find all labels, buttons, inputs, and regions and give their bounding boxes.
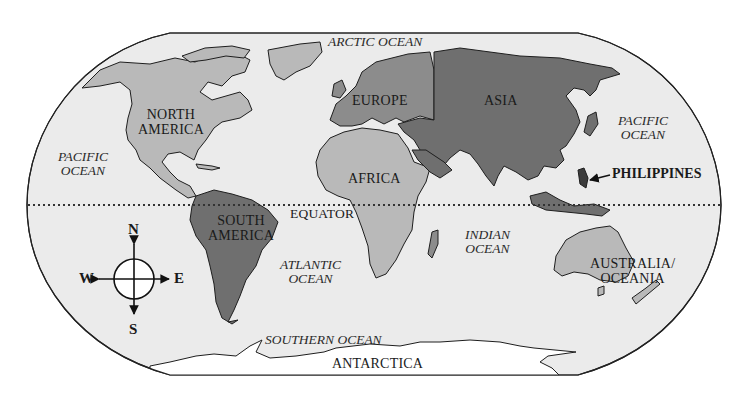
compass-east-label: E [174,271,184,286]
label-pacific-ocean-west: PACIFIC OCEAN [58,150,108,177]
label-arctic-ocean: ARCTIC OCEAN [328,35,422,49]
label-asia: ASIA [484,94,517,108]
label-line: AMERICA [138,123,204,137]
compass-north-label: N [128,222,139,237]
label-line: NORTH [138,108,204,122]
label-africa: AFRICA [348,172,401,186]
label-indian-ocean: INDIAN OCEAN [465,228,510,255]
compass-south-label: S [129,322,137,337]
label-line: AMERICA [208,229,274,243]
label-south-america: SOUTH AMERICA [208,214,274,243]
label-atlantic-ocean: ATLANTIC OCEAN [280,258,341,285]
label-line: OCEAN [618,128,668,142]
label-southern-ocean: SOUTHERN OCEAN [265,333,382,347]
label-line: OCEAN [280,272,341,286]
label-line: PACIFIC [58,150,108,164]
label-europe: EUROPE [352,94,408,108]
label-line: OCEAN [58,164,108,178]
label-line: AUSTRALIA/ [590,257,675,271]
label-line: ATLANTIC [280,258,341,272]
label-australia-oceania: AUSTRALIA/ OCEANIA [590,257,675,286]
label-line: PACIFIC [618,114,668,128]
label-north-america: NORTH AMERICA [138,108,204,137]
label-pacific-ocean-east: PACIFIC OCEAN [618,114,668,141]
label-line: SOUTH [208,214,274,228]
tasmania-landmass [598,286,604,296]
label-line: OCEAN [465,242,510,256]
compass-west-label: W [79,271,94,286]
label-line: OCEANIA [590,272,675,286]
label-line: INDIAN [465,228,510,242]
label-antarctica: ANTARCTICA [332,357,423,371]
label-equator: EQUATOR [290,207,354,221]
label-philippines: PHILIPPINES [612,167,701,181]
